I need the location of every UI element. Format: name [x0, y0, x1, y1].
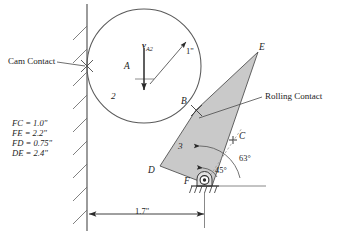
- point-label-e: E: [259, 42, 265, 53]
- horizontal-dimension-label: 1.7": [135, 206, 149, 216]
- wall-hatching-icon: [73, 26, 87, 224]
- dimension-fd: FD = 0.75": [12, 138, 52, 148]
- point-label-a: A: [124, 61, 130, 72]
- ground-hatching-icon: [190, 186, 218, 193]
- body-label-3: 3: [178, 141, 183, 152]
- dimension-fc: FC = 1.0": [12, 118, 52, 128]
- point-label-f: F: [184, 176, 190, 187]
- link-body-3: [160, 52, 258, 186]
- figure-canvas: Cam Contact Rolling Contact FC = 1.0" FE…: [0, 0, 344, 239]
- pin-center-dot: [203, 178, 206, 181]
- dimension-de: DE = 2.4": [12, 148, 52, 158]
- point-label-b: B: [181, 96, 187, 107]
- cam-contact-label: Cam Contact: [8, 56, 55, 67]
- cam-contact-leader: [57, 62, 85, 66]
- radius-dimension-label: 1": [186, 46, 194, 56]
- dimensions-list: FC = 1.0" FE = 2.2" FD = 0.75" DE = 2.4": [12, 118, 52, 158]
- velocity-subscript: A2: [146, 44, 153, 51]
- rolling-contact-label: Rolling Contact: [265, 91, 322, 102]
- radius-dimension-line: [150, 42, 186, 84]
- point-label-c: C: [239, 131, 245, 142]
- angle-label-63: 63°: [239, 154, 251, 164]
- velocity-vector-label: vA2: [133, 29, 153, 62]
- angle-label-45: 45°: [215, 166, 227, 176]
- body-label-2: 2: [111, 91, 116, 102]
- point-label-d: D: [148, 165, 155, 176]
- wall-ground: [73, 4, 87, 231]
- link-triangle: [160, 52, 258, 186]
- dimension-fe: FE = 2.2": [12, 128, 52, 138]
